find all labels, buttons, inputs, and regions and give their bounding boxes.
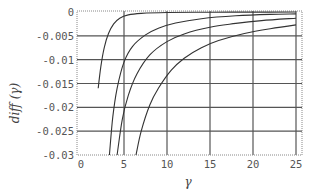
x-axis-label: γ — [184, 175, 192, 189]
chart: 0-0.005-0.01-0.015-0.02-0.025-0.03 05101… — [0, 0, 314, 193]
y-axis-ticks: 0-0.005-0.01-0.015-0.02-0.025-0.03 — [36, 6, 74, 161]
x-axis-ticks: 0510152025 — [78, 158, 302, 170]
x-tick-label: 15 — [204, 158, 217, 170]
x-tick-label: 10 — [161, 158, 174, 170]
y-axis-label: diff (γ) — [8, 82, 22, 123]
x-tick-label: 25 — [290, 158, 303, 170]
y-tick-label: -0.01 — [42, 54, 74, 66]
y-tick-label: 0 — [68, 6, 74, 18]
y-tick-label: -0.025 — [36, 125, 74, 137]
x-tick-label: 5 — [121, 158, 127, 170]
y-tick-label: -0.02 — [42, 101, 74, 113]
series-line — [109, 14, 296, 155]
y-tick-label: -0.005 — [36, 30, 74, 42]
series-line — [136, 25, 296, 155]
y-tick-label: -0.015 — [36, 78, 74, 90]
series-line — [117, 18, 296, 155]
x-tick-label: 20 — [247, 158, 260, 170]
x-tick-label: 0 — [78, 158, 84, 170]
y-tick-label: -0.03 — [42, 149, 74, 161]
